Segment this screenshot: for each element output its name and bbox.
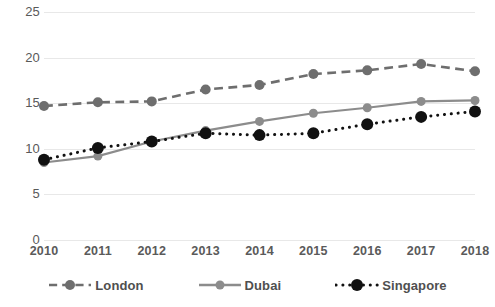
data-point-marker[interactable] [361, 118, 373, 130]
data-point-marker[interactable] [255, 80, 265, 90]
y-axis-tick-label: 15 [6, 96, 40, 109]
x-axis-tick-label: 2018 [445, 244, 495, 258]
x-axis-tick-label: 2013 [176, 244, 236, 258]
data-point-marker[interactable] [308, 69, 318, 79]
data-point-marker[interactable] [416, 59, 426, 69]
legend-item-london[interactable]: London [48, 278, 143, 293]
data-point-marker[interactable] [307, 127, 319, 139]
legend-item-dubai[interactable]: Dubai [198, 278, 282, 293]
data-point-marker[interactable] [415, 111, 427, 123]
data-point-marker[interactable] [147, 96, 157, 106]
x-axis-tick-label: 2015 [283, 244, 343, 258]
legend-swatch-london-icon [48, 278, 92, 292]
data-point-marker[interactable] [417, 97, 426, 106]
legend-label: Singapore [382, 278, 446, 293]
data-point-marker[interactable] [362, 65, 372, 75]
line-chart: 0510152025 20102011201220132014201520162… [0, 0, 495, 307]
gridline [44, 240, 475, 241]
legend-label: London [95, 278, 143, 293]
plot-area [44, 12, 475, 240]
y-axis-tick-label: 10 [6, 142, 40, 155]
x-axis-tick-label: 2014 [230, 244, 290, 258]
series-container [44, 12, 475, 240]
x-axis-tick-label: 2017 [391, 244, 451, 258]
x-axis-tick-label: 2010 [14, 244, 74, 258]
data-point-marker[interactable] [201, 85, 211, 95]
legend-label: Dubai [245, 278, 282, 293]
data-point-marker[interactable] [146, 136, 158, 148]
data-point-marker[interactable] [255, 117, 264, 126]
data-point-marker[interactable] [363, 103, 372, 112]
data-point-marker[interactable] [200, 127, 212, 139]
legend-item-singapore[interactable]: Singapore [335, 278, 446, 293]
data-point-marker[interactable] [93, 97, 103, 107]
y-axis-tick-label: 5 [6, 187, 40, 200]
data-point-marker[interactable] [38, 154, 50, 166]
x-axis-tick-label: 2011 [68, 244, 128, 258]
data-point-marker[interactable] [471, 96, 480, 105]
y-axis-tick-label: 25 [6, 5, 40, 18]
data-point-marker[interactable] [309, 109, 318, 118]
legend-swatch-singapore-icon [335, 278, 379, 292]
data-point-marker[interactable] [470, 66, 480, 76]
y-axis-tick-label: 20 [6, 51, 40, 64]
legend-swatch-dubai-icon [198, 278, 242, 292]
x-axis-tick-label: 2012 [122, 244, 182, 258]
data-point-marker[interactable] [254, 129, 266, 141]
data-point-marker[interactable] [469, 105, 481, 117]
data-point-marker[interactable] [39, 101, 49, 111]
data-point-marker[interactable] [92, 142, 104, 154]
x-axis-tick-label: 2016 [337, 244, 397, 258]
chart-legend: LondonDubaiSingapore [0, 272, 495, 298]
